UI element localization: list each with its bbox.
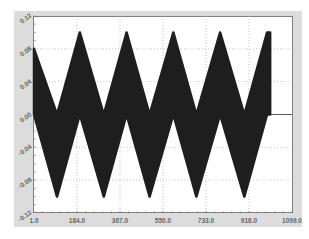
x-tick-label: 550.0	[155, 217, 171, 224]
x-tick-label: 367.0	[112, 217, 128, 224]
x-tick-label: 916.0	[241, 217, 257, 224]
x-tick-label: 733.0	[198, 217, 214, 224]
waveform-plot	[0, 0, 309, 239]
x-tick-label: 1.0	[29, 217, 38, 224]
x-tick-label: 184.0	[69, 217, 85, 224]
x-tick-label: 1099.0	[282, 217, 302, 224]
